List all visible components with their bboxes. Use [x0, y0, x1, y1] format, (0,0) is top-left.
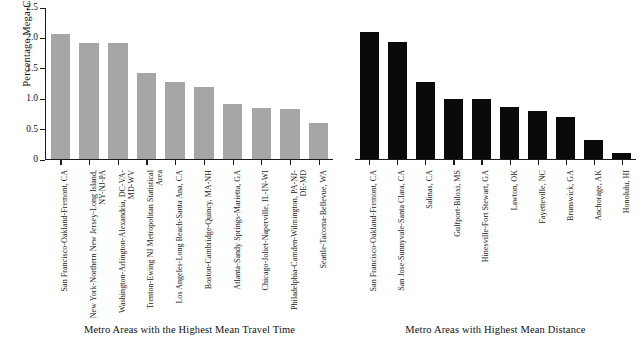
x-category-slot: Hinesville-Fort Stewart, GA: [467, 168, 495, 323]
y-tick-mark: [40, 68, 45, 69]
bar-slot: [218, 8, 247, 159]
y-tick-mark: [40, 99, 45, 100]
y-tick-label: 1.0: [12, 94, 38, 104]
panel-caption-right: Metro Areas with Highest Mean Distance: [355, 324, 636, 335]
x-category-slot: San Francisco-Oakland-Fremont, CA: [46, 168, 75, 323]
x-category-label: Brunswick, GA: [566, 170, 575, 320]
x-tick-slot: [46, 160, 75, 165]
bar: [223, 104, 243, 159]
x-tick-slot: [218, 160, 247, 165]
x-category-label: San Francisco-Oakland-Fremont, CA: [60, 170, 69, 320]
bar-slot: [276, 8, 305, 159]
bar: [584, 140, 603, 159]
bar-slot: [411, 8, 439, 159]
x-tick-slot: [467, 160, 495, 165]
x-tick-slot: [304, 160, 333, 165]
x-tick-mark: [60, 160, 61, 165]
x-tick-mark: [481, 160, 482, 165]
x-tick-slot: [580, 160, 608, 165]
x-tick-slot: [411, 160, 439, 165]
x-category-slot: Brunswick, GA: [552, 168, 580, 323]
bar: [79, 43, 99, 159]
x-tick-mark: [175, 160, 176, 165]
bar-slot: [161, 8, 190, 159]
x-category-label: Gulfport-Biloxi, MS: [453, 170, 462, 320]
bar-slot: [552, 8, 580, 159]
x-category-slot: Atlanta-Sandy Springs-Marietta, GA: [218, 168, 247, 323]
y-tick-label: 0: [12, 155, 38, 165]
x-tick-slot: [190, 160, 219, 165]
x-tick-slot: [495, 160, 523, 165]
bar-group-right: [355, 8, 636, 159]
panel-caption-left: Metro Areas with the Highest Mean Travel…: [46, 324, 333, 335]
x-category-slot: Lawton, OK: [495, 168, 523, 323]
x-category-slot: Salinas, CA: [411, 168, 439, 323]
y-tick-mark: [40, 160, 45, 161]
x-category-label: Chicago-Joliet-Naperville, IL-IN-WI: [261, 170, 270, 320]
x-category-label: Seattle-Tacoma-Bellevue, WA: [319, 170, 328, 320]
bar-slot: [580, 8, 608, 159]
bar-group-left: [46, 8, 333, 159]
x-tick-slot: [355, 160, 383, 165]
bar: [416, 82, 435, 159]
bar: [280, 109, 300, 159]
x-category-slot: Trenton-Ewing NJ Metropolitan Statistica…: [132, 168, 161, 323]
bar-slot: [439, 8, 467, 159]
x-tick-mark: [319, 160, 320, 165]
x-tick-mark: [594, 160, 595, 165]
x-category-slot: Washington-Arlington-Alexandria, DC-VA-M…: [103, 168, 132, 323]
y-tick-label: 2.5: [12, 3, 38, 13]
panel-travel-time: San Francisco-Oakland-Fremont, CANew Yor…: [46, 8, 333, 160]
y-tick-mark: [40, 8, 45, 9]
bar-slot: [132, 8, 161, 159]
y-tick-label: 0.5: [12, 125, 38, 135]
x-category-slot: Gulfport-Biloxi, MS: [439, 168, 467, 323]
bar: [194, 87, 214, 159]
x-tick-mark: [566, 160, 567, 165]
x-tick-slot: [524, 160, 552, 165]
x-tick-mark: [118, 160, 119, 165]
x-category-label: Fayetteville, NC: [538, 170, 547, 320]
x-category-label: San Jose-Sunnyvale-Santa Clara, CA: [397, 170, 406, 320]
panel-distance: San Francisco-Oakland-Fremont, CASan Jos…: [355, 8, 636, 160]
bar: [252, 108, 272, 159]
x-category-label: San Francisco-Oakland-Fremont, CA: [369, 170, 378, 320]
x-category-slot: Fayetteville, NC: [524, 168, 552, 323]
x-category-slot: Seattle-Tacoma-Bellevue, WA: [304, 168, 333, 323]
x-category-label: Anchorage, AK: [594, 170, 603, 320]
x-axis-category-labels-left: San Francisco-Oakland-Fremont, CANew Yor…: [46, 168, 333, 323]
x-category-label: Atlanta-Sandy Springs-Marietta, GA: [233, 170, 242, 320]
bar: [165, 82, 185, 159]
x-axis-category-labels-right: San Francisco-Oakland-Fremont, CASan Jos…: [355, 168, 636, 323]
bar: [472, 99, 491, 159]
x-category-slot: San Jose-Sunnyvale-Santa Clara, CA: [383, 168, 411, 323]
x-tick-slot: [276, 160, 305, 165]
x-tick-mark: [89, 160, 90, 165]
x-tick-slot: [383, 160, 411, 165]
bar: [137, 73, 157, 159]
x-category-slot: Honolulu, HI: [608, 168, 636, 323]
chart-figure: Percentage Mega-Commutes 00.51.01.52.02.…: [0, 0, 641, 349]
x-tick-mark: [425, 160, 426, 165]
x-tick-mark: [233, 160, 234, 165]
x-tick-mark: [290, 160, 291, 165]
x-category-label: Salinas, CA: [425, 170, 434, 320]
bar-slot: [524, 8, 552, 159]
x-tick-mark: [538, 160, 539, 165]
y-tick-label: 2.0: [12, 33, 38, 43]
y-tick-label: 1.5: [12, 64, 38, 74]
x-category-slot: San Francisco-Oakland-Fremont, CA: [355, 168, 383, 323]
bar: [388, 42, 407, 159]
x-category-slot: Chicago-Joliet-Naperville, IL-IN-WI: [247, 168, 276, 323]
x-tick-slot: [608, 160, 636, 165]
x-tick-slot: [132, 160, 161, 165]
x-tick-slot: [247, 160, 276, 165]
x-tick-slot: [439, 160, 467, 165]
x-category-slot: Los Angeles-Long Beach-Santa Ana, CA: [161, 168, 190, 323]
bar: [108, 43, 128, 159]
bar-slot: [304, 8, 333, 159]
x-category-label: Hinesville-Fort Stewart, GA: [481, 170, 490, 320]
bar-slot: [46, 8, 75, 159]
x-tick-mark: [453, 160, 454, 165]
x-category-label: Los Angeles-Long Beach-Santa Ana, CA: [175, 170, 184, 320]
